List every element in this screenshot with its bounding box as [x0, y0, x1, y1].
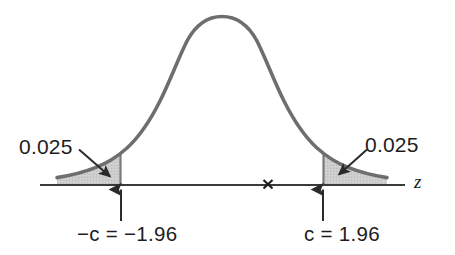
right-tail-probability-label: 0.025 — [365, 134, 419, 155]
left-critical-value-label: −c = −1.96 — [77, 224, 177, 245]
normal-curve — [57, 17, 387, 178]
right-critical-value-label: c = 1.96 — [304, 224, 380, 245]
z-axis-label: z — [414, 172, 421, 191]
distribution-plot-canvas — [0, 0, 455, 255]
left-tail-probability-label: 0.025 — [19, 136, 73, 157]
normal-distribution-figure: 0.025 0.025 −c = −1.96 c = 1.96 z — [0, 0, 455, 255]
